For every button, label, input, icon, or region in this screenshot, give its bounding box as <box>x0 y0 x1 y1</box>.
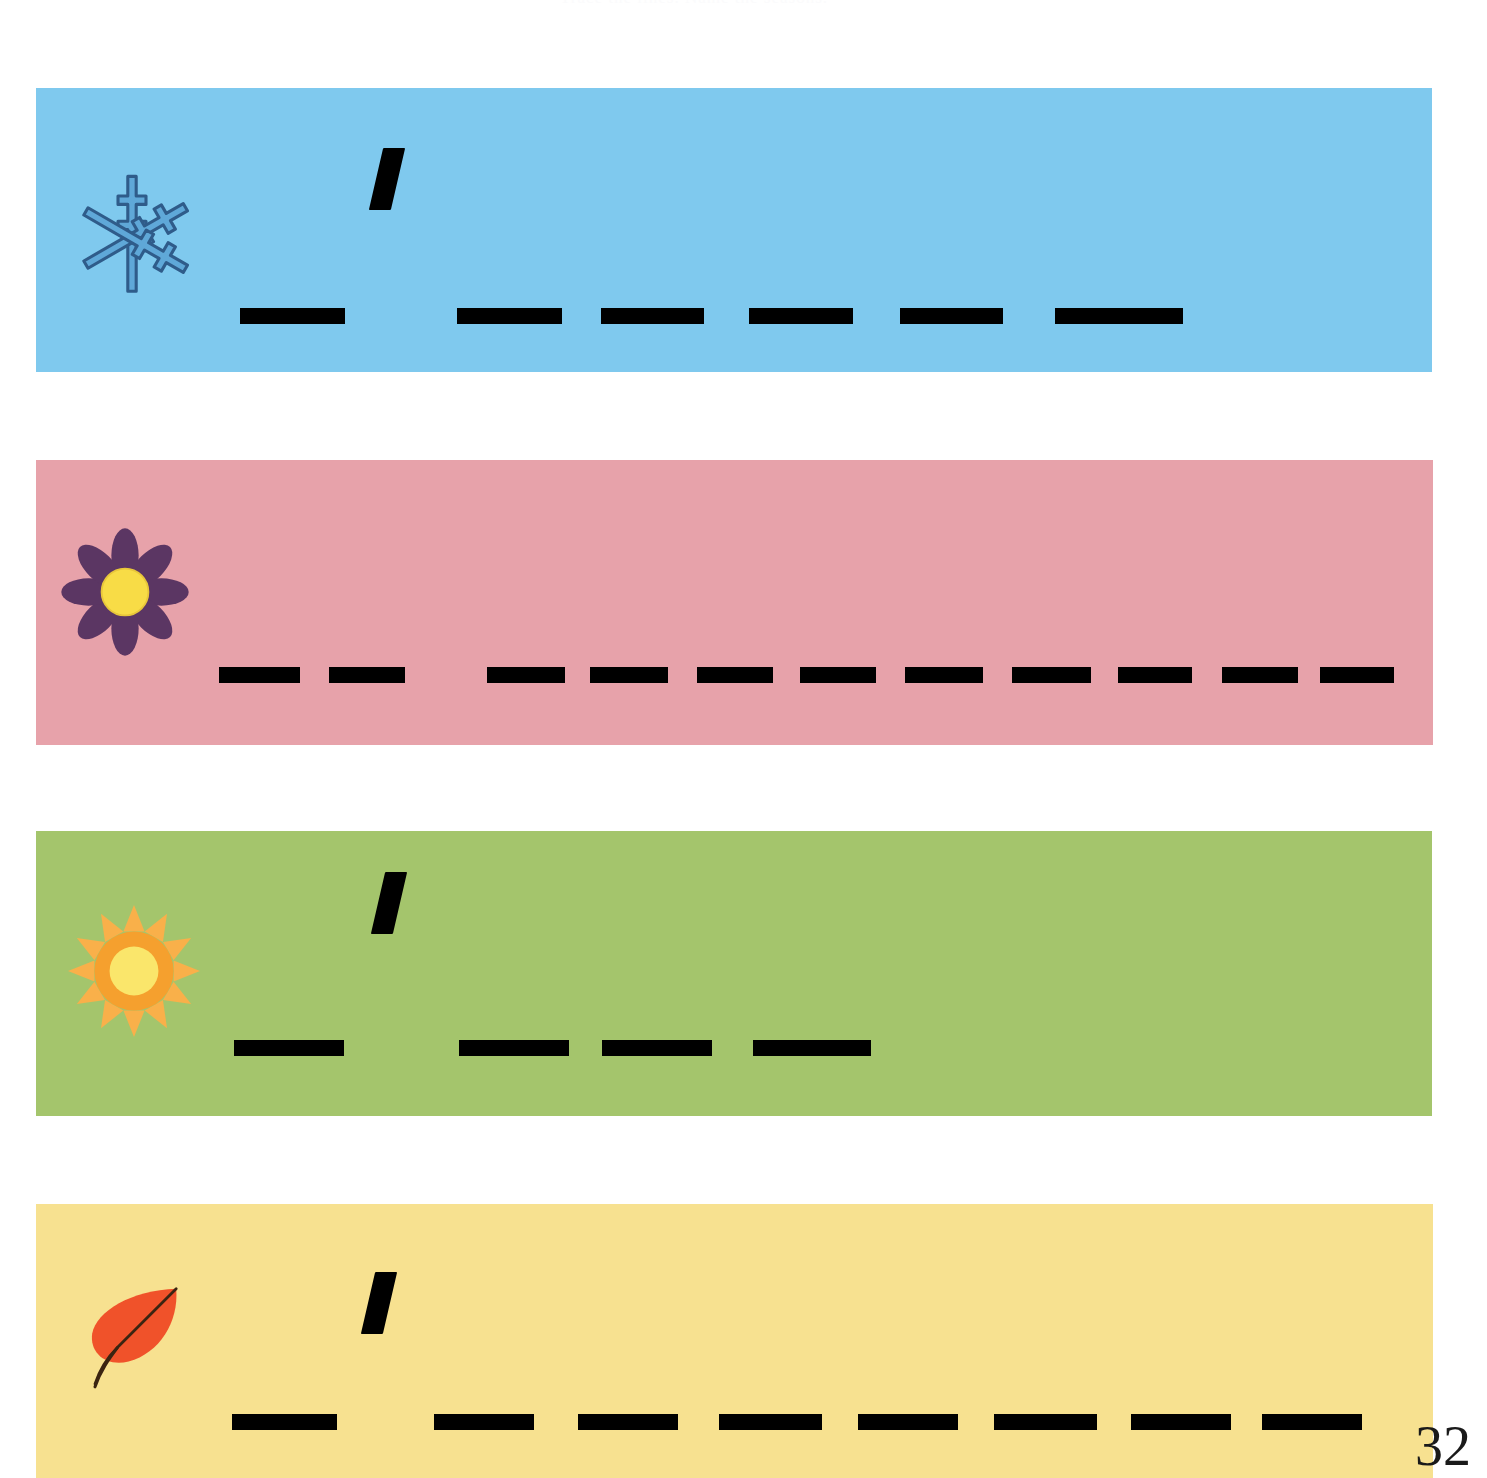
flower-icon <box>60 527 190 657</box>
tracing-dash <box>240 308 345 324</box>
tracing-dash <box>578 1414 678 1430</box>
tracing-dash <box>329 667 405 683</box>
tracing-dash <box>234 1040 344 1056</box>
tracing-dash <box>697 667 773 683</box>
season-band-spring <box>36 460 1433 745</box>
tracing-dash <box>1222 667 1298 683</box>
tracing-line-winter <box>36 308 1432 324</box>
leaf-icon <box>78 1272 196 1412</box>
season-band-summer <box>36 831 1432 1116</box>
tracing-dash <box>457 308 562 324</box>
tracing-dash <box>1055 308 1183 324</box>
worksheet-page: Trace the lines. Name the seasons. <box>0 0 1487 1478</box>
band-background-summer <box>36 831 1432 1116</box>
snowflake-icon <box>62 168 202 308</box>
tracing-line-spring <box>36 667 1433 683</box>
tracing-dash <box>1320 667 1394 683</box>
header-strip: Trace the lines. Name the seasons. <box>0 0 1487 6</box>
page-number: 32 <box>1415 1418 1471 1474</box>
band-background-winter <box>36 88 1432 372</box>
tracing-dash <box>219 667 300 683</box>
tracing-dash <box>900 308 1003 324</box>
tracing-dash <box>749 308 853 324</box>
tracing-dash <box>434 1414 534 1430</box>
tracing-line-autumn <box>36 1414 1433 1430</box>
tracing-dash <box>590 667 668 683</box>
tracing-dash <box>994 1414 1097 1430</box>
tracing-dash <box>601 308 704 324</box>
sun-icon <box>68 905 200 1037</box>
band-background-spring <box>36 460 1433 745</box>
tracing-dash <box>1012 667 1091 683</box>
tracing-dash <box>719 1414 822 1430</box>
tracing-dash <box>800 667 876 683</box>
season-band-winter <box>36 88 1432 372</box>
tracing-dash <box>1262 1414 1362 1430</box>
season-band-autumn <box>36 1204 1433 1478</box>
tracing-dash <box>1118 667 1192 683</box>
header-text: Trace the lines. Name the seasons. <box>560 0 828 6</box>
tracing-dash <box>1131 1414 1231 1430</box>
tracing-dash <box>459 1040 569 1056</box>
tracing-line-summer <box>36 1040 1432 1056</box>
band-background-autumn <box>36 1204 1433 1478</box>
tracing-dash <box>905 667 983 683</box>
tracing-dash <box>753 1040 871 1056</box>
tracing-dash <box>487 667 565 683</box>
tracing-dash <box>858 1414 958 1430</box>
tracing-dash <box>232 1414 337 1430</box>
tracing-dash <box>602 1040 712 1056</box>
